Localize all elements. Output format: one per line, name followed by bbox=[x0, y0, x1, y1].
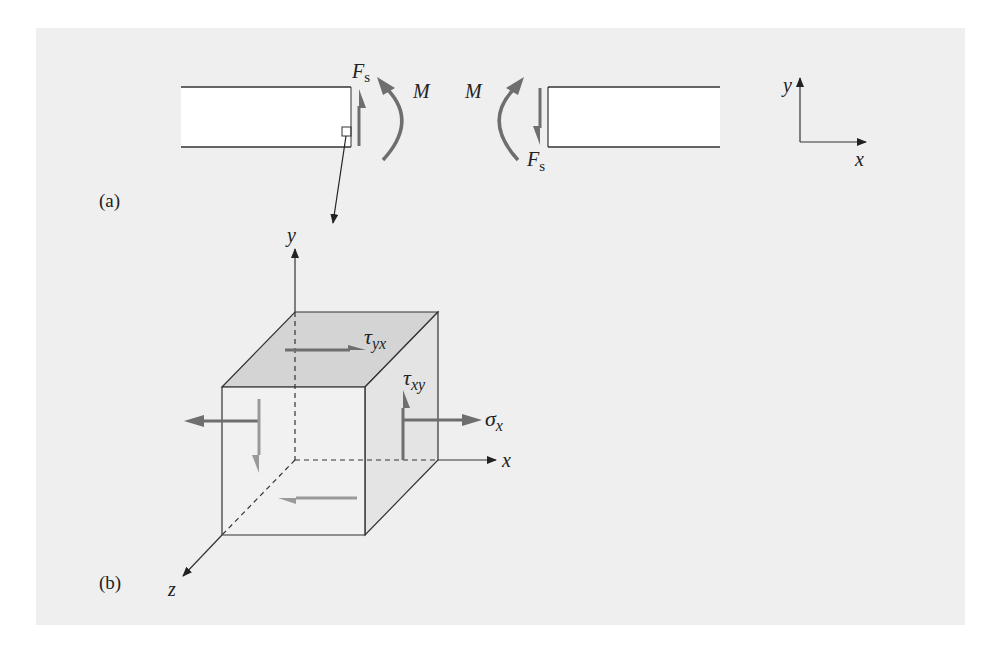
part-a-tag: (a) bbox=[99, 190, 120, 212]
axes-2d: y x bbox=[781, 74, 866, 170]
left-beam-segment bbox=[181, 87, 351, 147]
moment-label-right: M bbox=[464, 80, 483, 102]
sigma-x-label: σx bbox=[485, 406, 503, 434]
axis-y-3d-label: y bbox=[285, 224, 296, 247]
shear-force-down-arrow bbox=[533, 88, 540, 145]
element-pointer-arrow bbox=[333, 136, 346, 223]
shear-force-label-right: Fs bbox=[526, 148, 545, 174]
part-b-tag: (b) bbox=[99, 572, 121, 594]
axis-z-3d-label: z bbox=[167, 578, 176, 600]
axis-z-3d bbox=[183, 535, 222, 576]
shear-force-label-left: Fs bbox=[351, 60, 370, 85]
beam-stress-diagram: Fs M M Fs y x bbox=[0, 0, 996, 648]
axis-x-label: x bbox=[854, 148, 864, 170]
moment-arrow-left bbox=[377, 77, 402, 160]
part-b: y x z τyx τxy bbox=[99, 224, 511, 600]
axis-y-label: y bbox=[781, 74, 792, 97]
shear-force-up-arrow bbox=[359, 89, 366, 146]
axis-x-3d-label: x bbox=[501, 449, 511, 471]
moment-label-left: M bbox=[412, 80, 431, 102]
right-beam-segment bbox=[548, 87, 720, 147]
moment-arrow-right bbox=[499, 77, 524, 160]
part-a: Fs M M Fs y x bbox=[99, 60, 866, 223]
